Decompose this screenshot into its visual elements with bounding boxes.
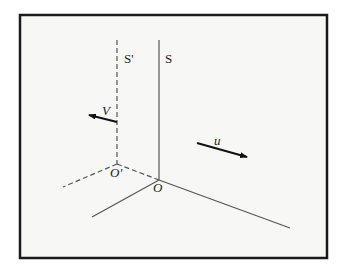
label-u: u <box>214 133 221 148</box>
label-s: S <box>165 51 172 66</box>
label-s-prime: S' <box>124 51 134 66</box>
label-origin: O <box>153 180 163 195</box>
relative-frames-diagram: S' S O' O V u <box>0 0 347 268</box>
frame-border <box>20 15 327 258</box>
label-origin-prime: O' <box>110 165 122 180</box>
